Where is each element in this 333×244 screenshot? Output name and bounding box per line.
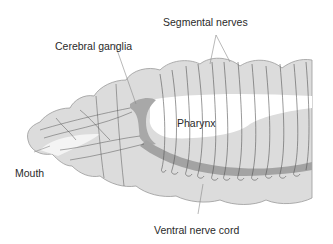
- label-ventral-nerve-cord: Ventral nerve cord: [154, 225, 239, 236]
- label-segmental-nerves: Segmental nerves: [163, 17, 248, 28]
- earthworm-nervous-system-diagram: Segmental nerves Cerebral ganglia Pharyn…: [0, 0, 333, 244]
- label-pharynx: Pharynx: [177, 118, 216, 129]
- worm-illustration: [0, 0, 333, 244]
- label-cerebral-ganglia: Cerebral ganglia: [55, 41, 132, 52]
- label-mouth: Mouth: [15, 168, 44, 179]
